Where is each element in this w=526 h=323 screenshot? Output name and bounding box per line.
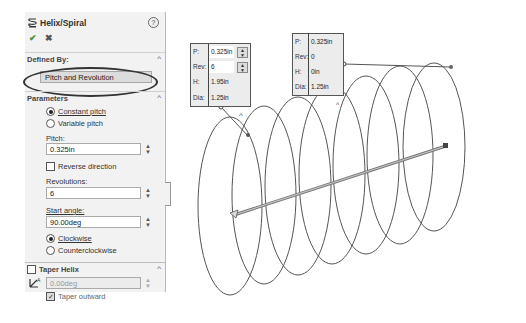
helix-graphics-viewport[interactable]: ^ ^ — [0, 0, 526, 323]
start-point-callout: P: 0.325in ▲▼ Rev: 6 ▲▼ H: 1.95in Dia: 1… — [190, 43, 251, 107]
callout-row-revolutions: Rev: 0 — [293, 50, 343, 64]
callout-row-pitch: P: 0.325in — [293, 35, 343, 49]
callout-row-diameter: Dia: 1.25in — [191, 91, 250, 105]
svg-text:^: ^ — [336, 101, 340, 108]
axis-start-arrow-icon[interactable] — [230, 210, 238, 218]
revolutions-callout-input[interactable]: 6 — [211, 60, 215, 74]
axis-end-handle[interactable] — [443, 143, 448, 148]
callout-row-revolutions: Rev: 6 ▲▼ — [191, 60, 250, 74]
pitch-callout-input[interactable]: 0.325in — [211, 45, 232, 59]
callout-row-height: H: 1.95in — [191, 75, 250, 89]
callout-row-height: H: 0in — [293, 65, 343, 79]
start-callout-leader — [221, 107, 248, 136]
spinner-icon[interactable]: ▲▼ — [237, 47, 248, 58]
helix-start-point[interactable] — [246, 133, 250, 137]
spinner-icon[interactable]: ▲▼ — [237, 62, 248, 73]
helix-end-point[interactable] — [449, 65, 453, 69]
end-point-callout: P: 0.325in Rev: 0 H: 0in Dia: 1.25in — [292, 33, 344, 96]
caret-icon: ^ — [239, 111, 243, 120]
callout-row-pitch: P: 0.325in ▲▼ — [191, 45, 250, 59]
callout-row-diameter: Dia: 1.25in — [293, 80, 343, 94]
